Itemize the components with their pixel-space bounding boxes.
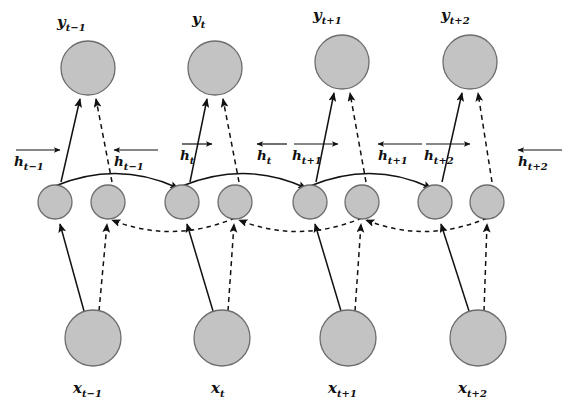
hidden-label-lbl-h-b-tm1: ht−1 (114, 153, 144, 172)
hidden-label-lbl-h-f-tp1: ht+1 (292, 147, 322, 166)
output-node-y-tp2 (443, 35, 497, 89)
hidden-node-h-b-tp1 (345, 185, 379, 219)
hidden-label-lbl-h-f-tm1: ht−1 (14, 153, 44, 172)
input-node-x-tm1 (65, 310, 121, 366)
hidden-label-lbl-h-f-t: ht (180, 147, 195, 166)
hidden-node-h-b-tm1 (91, 185, 125, 219)
forward-edge-t-to-tp1 (182, 173, 306, 188)
hidden-node-group (38, 185, 504, 219)
hidden-node-h-b-t (218, 185, 252, 219)
input-node-x-tp1 (320, 310, 376, 366)
bidirectional-rnn-diagram: yt−1ytyt+1yt+2 ht−1ht−1hththt+1ht+1ht+2h… (0, 0, 579, 411)
input-label-lbl-x-tp2: xt+2 (457, 379, 487, 399)
hidden-node-h-f-tp1 (293, 185, 327, 219)
output-node-y-t (188, 41, 242, 95)
forward-edge-tm1-to-t (55, 173, 178, 188)
output-label-group: yt−1ytyt+1yt+2 (56, 6, 470, 33)
hidden-label-lbl-h-b-t: ht (257, 147, 272, 166)
hidden-label-lbl-h-b-tp2: ht+2 (518, 153, 548, 172)
input-node-x-t (194, 310, 250, 366)
input-label-group: xt−1xtxt+1xt+2 (72, 379, 487, 399)
input-label-lbl-x-t: xt (210, 379, 225, 399)
edge-x-tp2-to-h-backward (484, 224, 487, 311)
edge-h-forward-tp1-to-y (316, 93, 334, 182)
hidden-label-group: ht−1ht−1hththt+1ht+1ht+2ht+2 (14, 144, 562, 172)
hidden-node-h-f-tp2 (418, 185, 452, 219)
edge-x-t-to-h-forward (187, 224, 213, 311)
input-node-group (65, 310, 506, 366)
edge-x-tp2-to-h-forward (441, 224, 469, 311)
output-label-lbl-y-tp2: yt+2 (440, 6, 470, 26)
edge-x-tp1-to-h-backward (355, 224, 361, 311)
edge-x-tp1-to-h-forward (315, 224, 341, 311)
output-label-lbl-y-tm1: yt−1 (56, 13, 86, 33)
edge-h-backward-tp1-to-y (350, 93, 366, 182)
backward-edge-tp2-to-tp1 (366, 218, 487, 232)
edge-h-backward-tp2-to-y (478, 93, 492, 182)
output-node-group (61, 35, 497, 95)
diagram-canvas: yt−1ytyt+1yt+2 ht−1ht−1hththt+1ht+1ht+2h… (0, 0, 579, 411)
hidden-label-lbl-h-b-tp1: ht+1 (378, 147, 408, 166)
forward-edge-tp1-to-tp2 (310, 173, 431, 188)
output-label-lbl-y-tp1: yt+1 (312, 6, 342, 26)
input-label-lbl-x-tp1: xt+1 (327, 379, 357, 399)
hidden-node-h-f-t (165, 185, 199, 219)
output-node-y-tm1 (61, 41, 115, 95)
edge-h-forward-tm1-to-y (61, 99, 80, 182)
backward-recurrent-edges (112, 218, 487, 232)
hidden-node-h-b-tp2 (470, 185, 504, 219)
edge-x-tm1-to-h-forward (60, 224, 84, 311)
edge-x-t-to-h-backward (228, 224, 234, 311)
backward-edge-t-to-tm1 (112, 218, 235, 232)
edge-h-forward-tp2-to-y (442, 93, 462, 182)
edge-h-forward-t-to-y (190, 99, 207, 182)
backward-edge-tp1-to-t (239, 218, 362, 232)
input-label-lbl-x-tm1: xt−1 (72, 379, 102, 399)
hidden-node-h-f-tm1 (38, 185, 72, 219)
input-to-hidden-edges (60, 224, 487, 311)
input-node-x-tp2 (450, 310, 506, 366)
output-node-y-tp1 (315, 35, 369, 89)
edge-h-backward-t-to-y (223, 99, 239, 182)
edge-h-backward-tm1-to-y (96, 99, 112, 182)
output-label-lbl-y-t: yt (191, 10, 206, 30)
edge-x-tm1-to-h-backward (99, 224, 107, 311)
